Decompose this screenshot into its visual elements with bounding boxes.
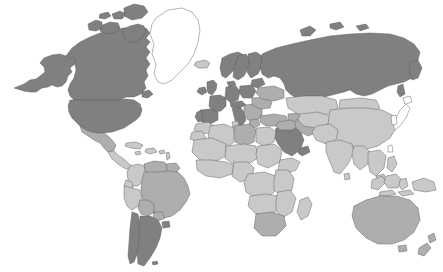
region-jamaica[interactable] (135, 151, 141, 155)
region-falklands[interactable] (152, 261, 158, 265)
region-sri-lanka[interactable] (344, 173, 350, 180)
region-libya[interactable] (234, 124, 256, 146)
region-taiwan[interactable] (388, 145, 393, 152)
region-uruguay[interactable] (162, 221, 170, 228)
region-puerto-rico[interactable] (159, 150, 165, 154)
world-map-figure (0, 0, 443, 272)
region-korea[interactable] (391, 115, 397, 125)
region-niger-chad[interactable] (225, 144, 258, 164)
region-tasmania[interactable] (398, 245, 407, 252)
region-germany[interactable] (225, 86, 240, 102)
world-map-canvas[interactable] (0, 0, 443, 272)
